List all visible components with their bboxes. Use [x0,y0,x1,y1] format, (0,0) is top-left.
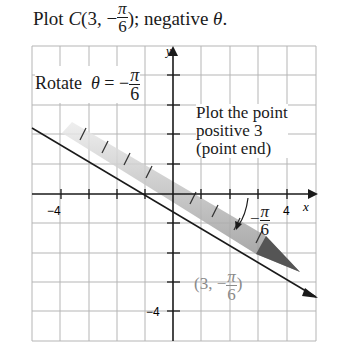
fraction-denominator: 6 [226,286,237,303]
rotate-fraction: π6 [129,66,140,103]
angle-fraction: π6 [260,203,271,238]
fraction-numerator: π [260,203,271,221]
plot-note-line: positive 3 [196,122,288,140]
fraction-numerator: π [226,268,237,286]
rotate-label: Rotate [35,73,82,93]
minus-sign: − [250,209,260,228]
polar-grid-plot: y x −4 4 −4 [0,0,340,356]
y-tick-neg4: −4 [146,305,160,319]
fraction-denominator: 6 [260,221,271,238]
point-label: (3, −π6) [194,268,242,303]
x-tick-neg4: −4 [47,204,61,218]
y-axis-label: y [165,44,172,58]
point-close: ) [237,274,243,293]
x-axis-label: x [302,199,309,214]
rotate-annotation: Rotate θ = −π6 [35,66,140,103]
plot-note-line: (point end) [196,140,288,158]
plot-note-line: Plot the point [196,104,288,122]
theta-symbol: θ [91,73,100,93]
point-open: (3, − [194,274,226,293]
point-fraction: π6 [226,268,237,303]
x-tick-4: 4 [283,204,290,218]
angle-label: −π6 [250,203,270,238]
fraction-denominator: 6 [129,85,140,103]
fraction-numerator: π [129,66,140,85]
plot-note: Plot the point positive 3 (point end) [196,104,288,158]
equals-sign: = − [100,73,129,93]
